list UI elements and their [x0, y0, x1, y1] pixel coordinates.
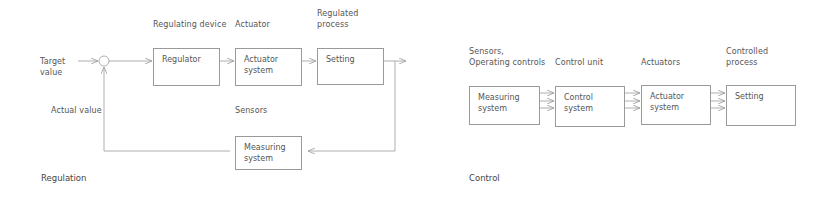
actuator-system-label: Actuator system — [244, 54, 278, 76]
control-system-label: Control system — [564, 92, 593, 114]
measuring-system-box: Measuring system — [235, 136, 302, 170]
header-sensors-operating-controls: Sensors, Operating controls — [469, 46, 545, 68]
measuring-system-label: Measuring system — [244, 142, 286, 164]
header-actuator: Actuator — [235, 19, 270, 30]
label-actual-value: Actual value — [51, 105, 102, 116]
label-target-value: Target value — [40, 56, 65, 78]
summing-junction — [99, 56, 109, 66]
actuator-system-box: Actuator system — [235, 48, 302, 86]
header-control-unit: Control unit — [555, 57, 603, 68]
setting-label: Setting — [735, 91, 764, 102]
measuring-system-box: Measuring system — [469, 86, 540, 125]
caption-regulation: Regulation — [41, 173, 86, 184]
header-controlled-process: Controlled process — [726, 46, 768, 68]
setting-label: Setting — [326, 54, 355, 65]
measuring-system-label: Measuring system — [478, 92, 520, 114]
header-actuators: Actuators — [641, 57, 680, 68]
control-system-box: Control system — [555, 86, 625, 127]
setting-box: Setting — [317, 48, 384, 85]
setting-box: Setting — [726, 85, 796, 126]
actuator-system-label: Actuator system — [650, 91, 684, 113]
header-regulating-device: Regulating device — [153, 19, 226, 30]
regulator-box: Regulator — [153, 48, 220, 86]
header-regulated-process: Regulated process — [317, 8, 358, 30]
header-sensors: Sensors — [235, 105, 267, 116]
actuator-system-box: Actuator system — [641, 85, 711, 125]
regulator-label: Regulator — [162, 54, 201, 65]
caption-control: Control — [469, 173, 500, 184]
